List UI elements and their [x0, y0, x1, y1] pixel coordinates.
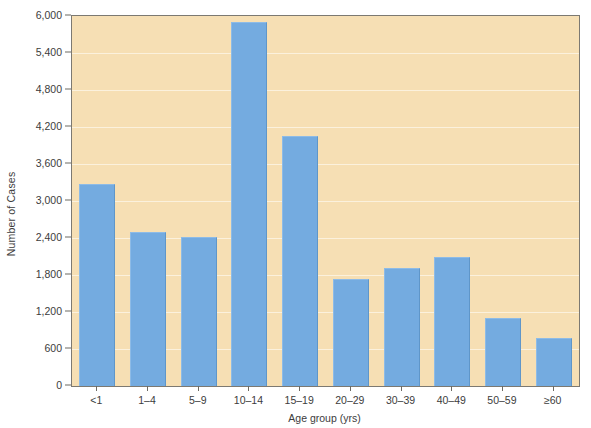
bar [434, 257, 470, 387]
x-axis-tick-mark [350, 386, 351, 391]
bar [79, 184, 115, 386]
x-axis-tick-mark [401, 386, 402, 391]
bar-series [72, 16, 579, 386]
x-axis-tick-mark [198, 386, 199, 391]
y-axis-tick-label: 0 [56, 379, 62, 391]
y-axis-tick-label: 5,400 [36, 46, 62, 58]
x-axis-tick-label: 10–14 [234, 394, 263, 406]
x-axis-tick-label: 15–19 [285, 394, 314, 406]
x-axis-tick-mark [553, 386, 554, 391]
y-axis-tick-label: 1,800 [36, 268, 62, 280]
x-axis-tick-label: 20–29 [335, 394, 364, 406]
x-axis-tick-label: 40–49 [437, 394, 466, 406]
x-axis-tick-mark [147, 386, 148, 391]
y-axis-tick-label: 3,600 [36, 157, 62, 169]
x-axis-tick-label: 1–4 [138, 394, 156, 406]
y-axis-tick-label: 6,000 [36, 9, 62, 21]
x-axis-tick-label: ≥60 [544, 394, 561, 406]
x-axis-tick-label: <1 [90, 394, 102, 406]
x-axis-tick-mark [248, 386, 249, 391]
bar [384, 268, 420, 386]
bar [181, 237, 217, 386]
x-axis: Age group (yrs) <11–45–910–1415–1920–293… [71, 386, 578, 428]
plot-area [71, 15, 580, 387]
bar-chart-figure: Number of Cases 06001,2001,8002,4003,000… [0, 0, 591, 428]
bar [485, 318, 521, 386]
bar [282, 136, 318, 386]
y-axis-tick-label: 4,800 [36, 83, 62, 95]
y-axis-tick-label: 600 [44, 342, 62, 354]
x-axis-tick-label: 50–59 [487, 394, 516, 406]
bar [536, 338, 572, 386]
bar [333, 279, 369, 386]
x-axis-tick-mark [451, 386, 452, 391]
bar [130, 232, 166, 386]
x-axis-tick-label: 5–9 [189, 394, 207, 406]
y-axis-tick-label: 1,200 [36, 305, 62, 317]
x-axis-tick-label: 30–39 [386, 394, 415, 406]
bar [231, 22, 267, 386]
y-axis-tick-labels: 06001,2001,8002,4003,0003,6004,2004,8005… [0, 0, 71, 428]
x-axis-tick-mark [96, 386, 97, 391]
x-axis-tick-mark [502, 386, 503, 391]
x-axis-title: Age group (yrs) [71, 412, 578, 424]
y-axis-tick-label: 2,400 [36, 231, 62, 243]
x-axis-tick-mark [299, 386, 300, 391]
y-axis-tick-label: 3,000 [36, 194, 62, 206]
y-axis-tick-label: 4,200 [36, 120, 62, 132]
